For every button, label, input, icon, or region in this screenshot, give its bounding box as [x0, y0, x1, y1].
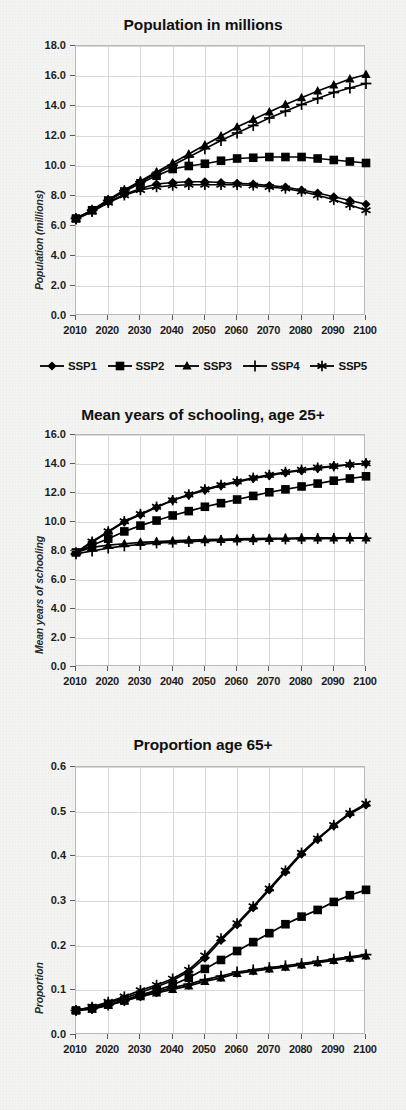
legend-item-ssp2[interactable]: SSP2 — [107, 358, 165, 374]
data-point-marker-ssp4 — [361, 533, 372, 544]
x-axis-tick-label: 2030 — [128, 675, 151, 687]
x-axis-tick-label: 2080 — [289, 324, 312, 336]
x-axis-tick-mark — [268, 315, 269, 320]
x-axis-tick-mark — [268, 1034, 269, 1039]
data-point-marker-ssp4 — [199, 974, 210, 985]
x-axis-tick-mark — [333, 666, 334, 671]
data-point-marker-ssp4 — [183, 536, 194, 547]
x-axis-tick-mark — [301, 666, 302, 671]
data-point-marker-ssp2 — [346, 157, 355, 166]
x-axis-tick-label: 2070 — [257, 324, 280, 336]
y-axis-tick-mark — [70, 285, 75, 286]
data-point-marker-ssp2 — [362, 472, 371, 481]
legend-label: SSP3 — [203, 360, 232, 372]
y-axis-tick-mark — [70, 45, 75, 46]
x-axis-tick-mark — [139, 666, 140, 671]
x-axis-tick-mark — [75, 666, 76, 671]
y-axis-tick-label: 18.0 — [0, 39, 66, 51]
x-axis-tick-mark — [172, 1034, 173, 1039]
data-point-marker-ssp2 — [297, 482, 306, 491]
triangle-marker — [174, 358, 200, 374]
x-axis-tick-mark — [236, 1034, 237, 1039]
y-axis-tick-label: 6.0 — [0, 219, 66, 231]
x-axis-tick-mark — [204, 315, 205, 320]
plot-area — [75, 45, 365, 315]
data-point-marker-ssp4 — [119, 541, 130, 552]
legend-item-ssp3[interactable]: SSP3 — [174, 358, 232, 374]
data-point-marker-ssp2 — [346, 474, 355, 483]
x-axis-tick-label: 2010 — [63, 324, 86, 336]
y-axis-tick-mark — [70, 492, 75, 493]
x-axis-tick-mark — [107, 666, 108, 671]
asterisk-marker — [309, 358, 335, 374]
y-axis-tick-mark — [70, 945, 75, 946]
y-axis-tick-mark — [70, 766, 75, 767]
y-axis-tick-label: 0.3 — [0, 894, 66, 906]
x-axis-tick-mark — [301, 1034, 302, 1039]
y-axis-tick-mark — [70, 637, 75, 638]
y-axis-tick-label: 12.0 — [0, 486, 66, 498]
y-axis-tick-label: 0.5 — [0, 805, 66, 817]
series-line-ssp2 — [76, 890, 366, 1011]
x-axis-tick-label: 2060 — [224, 324, 247, 336]
y-axis-tick-mark — [70, 195, 75, 196]
data-point-marker-ssp2 — [281, 920, 290, 929]
y-axis-tick-label: 0.0 — [0, 1028, 66, 1040]
y-axis-tick-label: 6.0 — [0, 573, 66, 585]
x-axis-tick-label: 2060 — [224, 675, 247, 687]
data-point-marker-ssp4 — [183, 152, 194, 163]
data-point-marker-ssp2 — [217, 499, 226, 508]
data-point-marker-ssp2 — [217, 156, 226, 165]
data-point-marker-ssp2 — [233, 495, 242, 504]
data-point-marker-ssp2 — [313, 906, 322, 915]
legend-item-ssp4[interactable]: SSP4 — [242, 358, 300, 374]
x-axis-tick-label: 2050 — [192, 675, 215, 687]
data-point-marker-ssp2 — [297, 912, 306, 921]
data-point-marker-ssp4 — [312, 533, 323, 544]
y-axis-tick-mark — [70, 900, 75, 901]
plot-area — [75, 766, 365, 1034]
legend-label: SSP4 — [271, 360, 300, 372]
x-axis-tick-label: 2030 — [128, 1043, 151, 1055]
legend-item-ssp5[interactable]: SSP5 — [309, 358, 367, 374]
data-point-marker-ssp4 — [344, 533, 355, 544]
y-axis-tick-mark — [70, 521, 75, 522]
x-axis-tick-label: 2040 — [160, 675, 183, 687]
chart-panel-population: Population in millions Population (milli… — [0, 0, 406, 392]
data-point-marker-ssp2 — [249, 492, 258, 501]
x-axis-tick-label: 2100 — [353, 324, 376, 336]
x-axis-tick-mark — [172, 666, 173, 671]
x-axis-tick-label: 2040 — [160, 1043, 183, 1055]
y-axis-tick-label: 4.0 — [0, 602, 66, 614]
x-axis-tick-label: 2090 — [321, 1043, 344, 1055]
x-axis-tick-mark — [365, 666, 366, 671]
data-point-marker-ssp2 — [265, 929, 274, 938]
data-point-marker-ssp2 — [152, 516, 161, 525]
series-layer — [76, 435, 366, 667]
x-axis-tick-label: 2060 — [224, 1043, 247, 1055]
data-point-marker-ssp2 — [136, 521, 145, 530]
series-layer — [76, 767, 366, 1035]
data-point-marker-ssp4 — [216, 535, 227, 546]
data-point-marker-ssp2 — [168, 511, 177, 520]
x-axis-tick-mark — [107, 315, 108, 320]
y-axis-tick-label: 0.0 — [0, 309, 66, 321]
x-axis-tick-label: 2010 — [63, 675, 86, 687]
y-axis-tick-label: 4.0 — [0, 249, 66, 261]
x-axis-tick-mark — [75, 1034, 76, 1039]
data-point-marker-ssp4 — [328, 533, 339, 544]
legend-label: SSP2 — [136, 360, 165, 372]
legend-label: SSP1 — [68, 360, 97, 372]
data-point-marker-ssp2 — [201, 965, 210, 974]
x-axis-tick-mark — [236, 315, 237, 320]
data-point-marker-ssp2 — [217, 956, 226, 965]
data-point-marker-ssp4 — [167, 537, 178, 548]
x-axis-tick-label: 2030 — [128, 324, 151, 336]
y-axis-tick-mark — [70, 608, 75, 609]
data-point-marker-ssp4 — [280, 534, 291, 545]
x-axis-tick-mark — [333, 315, 334, 320]
legend-item-ssp1[interactable]: SSP1 — [39, 358, 97, 374]
y-axis-tick-mark — [70, 550, 75, 551]
y-axis-tick-mark — [70, 165, 75, 166]
y-axis-tick-mark — [70, 855, 75, 856]
